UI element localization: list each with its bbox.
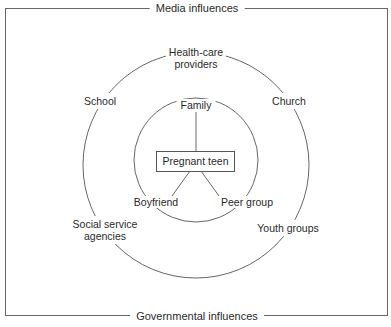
health-care-line2: providers — [169, 58, 223, 70]
pregnant-teen-box: Pregnant teen — [156, 151, 235, 172]
health-care-line1: Health-care — [169, 46, 223, 58]
boyfriend-label: Boyfriend — [131, 196, 181, 208]
church-label: Church — [269, 93, 309, 109]
family-label: Family — [177, 99, 216, 111]
social-service-line1: Social service — [73, 218, 138, 230]
governmental-influences-label: Governmental influences — [130, 310, 264, 323]
peer-group-label: Peer group — [218, 196, 276, 208]
school-label: School — [81, 93, 119, 109]
media-influences-label: Media influences — [150, 2, 245, 15]
social-service-agencies-label: Social service agencies — [70, 216, 141, 244]
youth-groups-label: Youth groups — [254, 220, 322, 236]
health-care-providers-label: Health-care providers — [166, 46, 226, 70]
connector-peer-group — [201, 171, 219, 196]
social-service-line2: agencies — [73, 230, 138, 242]
connector-boyfriend — [172, 171, 190, 196]
